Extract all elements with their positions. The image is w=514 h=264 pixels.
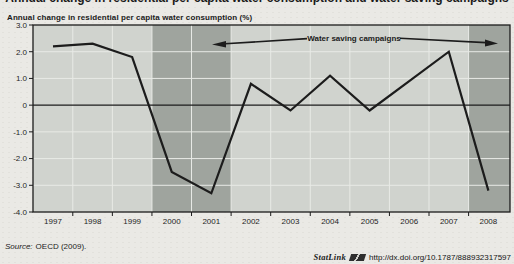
- y-axis-label: 1.0: [16, 74, 28, 83]
- x-axis-label: 2008: [479, 217, 497, 226]
- x-axis-label: 2004: [321, 217, 339, 226]
- x-axis-label: 2007: [440, 217, 458, 226]
- y-axis-label: 2.0: [16, 48, 28, 57]
- y-axis-label: -3.0: [13, 181, 27, 190]
- y-axis-label: -2.0: [13, 154, 27, 163]
- annotation-water-saving-campaigns: Water saving campaigns: [307, 34, 401, 43]
- y-axis-label: 3.0: [16, 21, 28, 30]
- water-consumption-chart: 3.02.01.00-1.0-2.0-3.0-4.019971998199920…: [0, 0, 514, 236]
- source-label: Source:: [5, 242, 33, 251]
- x-axis-label: 2005: [361, 217, 379, 226]
- source-note: Source:OECD (2009).: [5, 242, 86, 251]
- statlink-url[interactable]: http://dx.doi.org/10.1787/888932317597: [369, 253, 511, 262]
- campaign-band: [469, 25, 510, 212]
- x-axis-label: 1999: [123, 217, 141, 226]
- y-axis-label: -1.0: [13, 128, 27, 137]
- x-axis-label: 1997: [44, 217, 62, 226]
- y-axis-label: 0: [23, 101, 28, 110]
- y-axis-label: -4.0: [13, 208, 27, 217]
- statlink-icon: [349, 254, 366, 261]
- scanned-report-page: Annual change in residential per capita …: [0, 0, 514, 264]
- x-axis-label: 2003: [282, 217, 300, 226]
- x-axis-label: 2006: [400, 217, 418, 226]
- x-axis-label: 1998: [84, 217, 102, 226]
- statlink-label: StatLink: [313, 252, 346, 262]
- statlink-row: StatLink http://dx.doi.org/10.1787/88893…: [313, 252, 511, 262]
- source-text: OECD (2009).: [36, 242, 87, 251]
- x-axis-label: 2001: [202, 217, 220, 226]
- x-axis-label: 2002: [242, 217, 260, 226]
- plot-background: [33, 25, 510, 212]
- x-axis-label: 2000: [163, 217, 181, 226]
